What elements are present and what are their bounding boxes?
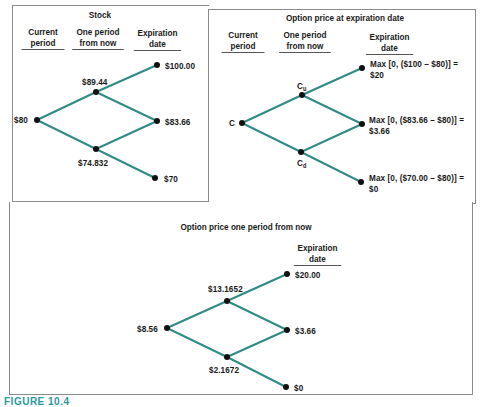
option-exp-node-dd-label: Max [0, ($70.00 – $80)] =$0 — [369, 172, 464, 194]
option-one-header-expiration: Expiration date — [294, 242, 341, 266]
option-exp-node-uu-label: Max [0, ($100 – $80)] =$20 — [370, 58, 458, 80]
option-exp-header-expiration: Expiration date — [366, 31, 413, 55]
stock-node-dd-label: $70 — [164, 173, 178, 184]
option-exp-node-ud-label: Max [0, ($83.66 – $80)] =$3.66 — [369, 114, 464, 136]
option-exp-node-up-label: Cu — [297, 80, 307, 92]
stock-title: Stock — [74, 9, 126, 20]
option-expiration-title: Option price at expiration date — [281, 12, 410, 23]
option-one-node-down-label: $2.1672 — [209, 364, 239, 375]
stock-node-ud-label: $83.66 — [165, 116, 191, 127]
option-one-node-root-label: $8.56 — [137, 323, 158, 334]
stock-node-root-label: $80 — [14, 114, 28, 125]
option-one-node-ud-label: $3.66 — [295, 325, 316, 336]
stock-node-up-label: $89.44 — [82, 76, 108, 87]
option-one-node-dd-label: $0 — [294, 382, 303, 393]
option-one-node-up-label: $13.1652 — [208, 283, 243, 294]
stock-header-current: Current period — [22, 26, 65, 50]
figure-caption: FIGURE 10.4 — [4, 396, 70, 407]
option-exp-header-one-period: One period from now — [279, 29, 331, 53]
option-exp-node-down-label: Cd — [297, 157, 307, 169]
option-one-period-title: Option price one period from now — [181, 221, 310, 232]
option-exp-header-current: Current period — [222, 29, 265, 53]
stock-node-down-label: $74.832 — [78, 157, 108, 168]
stock-header-expiration: Expiration date — [134, 27, 181, 51]
stock-header-one-period: One period from now — [72, 26, 124, 50]
option-exp-node-root-label: C — [229, 117, 235, 128]
stock-node-uu-label: $100.00 — [165, 60, 195, 71]
option-one-node-uu-label: $20.00 — [295, 269, 321, 280]
